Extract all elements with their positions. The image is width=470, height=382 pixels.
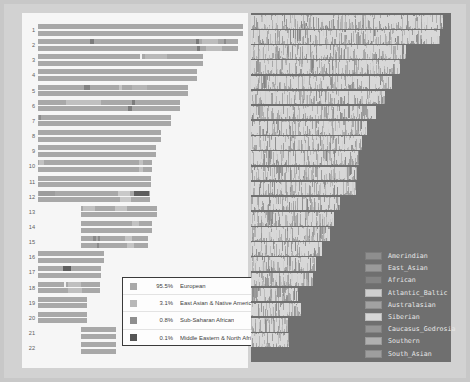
painting-component-spike [300,25,301,29]
painting-component-spike [391,45,392,54]
painting-component-spike [278,223,280,226]
ancestry-segment [224,39,227,44]
painting-component-spike [322,164,323,165]
painting-component-spike [355,190,356,195]
painting-component-spike [390,72,392,74]
painting-component-spike [266,76,267,86]
painting-component-spike [324,197,325,202]
painting-component-spike [327,146,328,150]
painting-component-spike [350,28,351,29]
chromosome-label: 20 [22,311,35,326]
painting-component-spike [372,61,374,74]
chromosome-painting-bar [251,76,392,90]
painting-row [251,136,362,150]
painting-component-spike [420,30,421,31]
painting-component-spike [267,136,269,138]
painting-component-spike [336,106,337,107]
painting-component-spike [268,82,269,90]
painting-component-spike [272,333,273,341]
painting-component-spike [276,233,277,241]
painting-component-spike [390,76,391,77]
painting-component-spike [264,301,265,302]
painting-component-spike [324,132,325,134]
painting-component-spike [296,58,297,59]
painting-component-spike [252,151,253,152]
painting-component-spike [258,304,259,317]
painting-component-spike [339,146,340,149]
painting-component-spike [300,132,301,135]
haplotype-bar [81,243,148,248]
painting-component-spike [280,82,281,89]
painting-component-spike [297,136,298,137]
painting-component-spike [365,45,366,46]
painting-component-spike [287,197,288,203]
painting-component-spike [273,301,275,302]
chromosome-haplotype-pair [81,236,148,249]
painting-component-spike [328,31,329,44]
painting-component-spike [307,15,308,22]
painting-component-spike [259,91,260,92]
painting-component-spike [316,45,317,52]
painting-row [251,15,443,29]
painting-component-spike [307,234,308,241]
painting-component-spike [283,164,284,165]
painting-component-spike [320,115,321,120]
painting-component-spike [369,91,371,98]
painting-component-spike [284,41,285,44]
painting-component-spike [369,76,370,89]
painting-component-spike [376,54,378,59]
painting-component-spike [322,179,323,180]
painting-component-spike [284,281,285,286]
ancestry-segment [39,191,55,196]
population-legend-item: African [362,274,466,286]
painting-component-spike [276,227,277,230]
chromosome-label: 17 [22,265,35,280]
painting-component-spike [338,136,339,143]
chromosome-haplotype-pair [38,39,238,52]
painting-component-spike [377,94,378,104]
painting-component-spike [319,33,320,43]
painting-component-spike [435,28,437,29]
painting-component-spike [278,41,279,44]
painting-component-spike [353,52,354,59]
painting-component-spike [283,227,284,229]
ancestry-segment [132,221,139,226]
painting-component-spike [302,76,303,77]
haplotype-bar [38,167,152,172]
population-legend-item: East_Asian [362,262,466,274]
painting-component-spike [421,30,422,32]
painting-component-spike [342,151,343,152]
painting-component-spike [312,212,313,223]
painting-component-spike [315,82,316,89]
painting-component-spike [281,182,283,191]
population-swatch-icon [365,276,382,284]
painting-component-spike [271,297,272,301]
painting-component-spike [259,35,260,44]
chromosome-painting-bar [251,182,356,196]
painting-component-spike [302,144,303,149]
painting-component-spike [265,297,266,301]
painting-component-spike [375,76,376,79]
painting-component-spike [272,26,273,28]
ancestry-segment [202,39,218,44]
painting-component-spike [406,27,407,28]
painting-component-spike [302,60,303,64]
painting-component-spike [326,212,327,217]
ancestry-swatch-icon [130,283,137,290]
painting-row [251,197,340,211]
painting-row [251,273,313,287]
painting-component-spike [303,58,304,59]
painting-component-spike [300,212,301,213]
painting-component-spike [271,333,273,334]
painting-component-spike [281,282,282,286]
painting-component-spike [310,197,311,203]
painting-component-spike [373,89,374,90]
painting-component-spike [362,76,363,77]
painting-component-spike [320,136,321,146]
painting-component-spike [367,91,368,99]
painting-component-spike [330,209,332,210]
painting-component-spike [426,39,427,44]
population-component-legend: AmerindianEast_AsianAfricanAtlantic_Balt… [362,250,466,362]
painting-component-spike [324,175,325,180]
painting-component-spike [291,112,292,120]
